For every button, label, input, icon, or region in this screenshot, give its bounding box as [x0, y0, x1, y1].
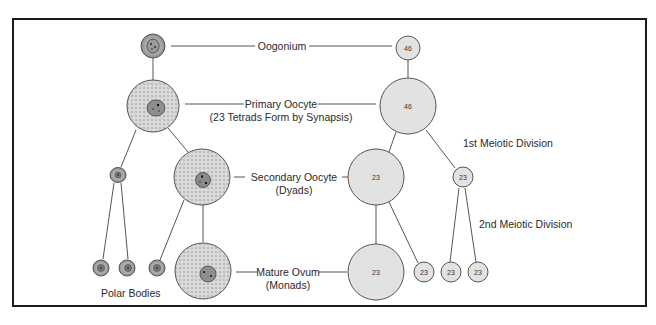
chromosome-count-secondary-oocyte: 23 [372, 174, 380, 181]
polar-body-cell [119, 260, 135, 276]
secondary-oocyte-cell [174, 149, 230, 205]
chromosome-count-mature-ovum: 23 [372, 269, 380, 276]
chromosome-count-polar-body-b: 23 [447, 269, 455, 276]
label-first-meiotic-division: 1st Meiotic Division [463, 137, 553, 149]
oogenesis-diagram: 46 46 23 23 23 23 23 23 [0, 0, 656, 325]
label-polar-bodies: Polar Bodies [101, 287, 161, 299]
chromosome-count-first-polar-body: 23 [459, 174, 467, 181]
label-second-meiotic-division: 2nd Meiotic Division [479, 218, 572, 230]
label-primary-oocyte: Primary Oocyte [245, 98, 317, 110]
chromosome-count-polar-body-a: 23 [420, 269, 428, 276]
label-mature-ovum-note: (Monads) [266, 279, 310, 291]
label-secondary-oocyte: Secondary Oocyte [251, 171, 337, 183]
chromosome-count-primary-oocyte: 46 [404, 103, 412, 110]
label-oogonium: Oogonium [258, 40, 306, 52]
chromosome-count-oogonium: 46 [404, 45, 412, 52]
primary-oocyte-cell [127, 80, 179, 132]
chromosome-count-polar-body-c: 23 [474, 269, 482, 276]
oogonium-cell [141, 34, 165, 58]
first-polar-body-cell [110, 168, 126, 183]
mature-ovum-cell [175, 243, 231, 299]
label-secondary-oocyte-note: (Dyads) [276, 184, 313, 196]
polar-body-cell [93, 260, 109, 276]
polar-body-cell [149, 260, 165, 276]
label-primary-oocyte-note: (23 Tetrads Form by Synapsis) [210, 111, 353, 123]
label-mature-ovum: Mature Ovum [256, 266, 320, 278]
